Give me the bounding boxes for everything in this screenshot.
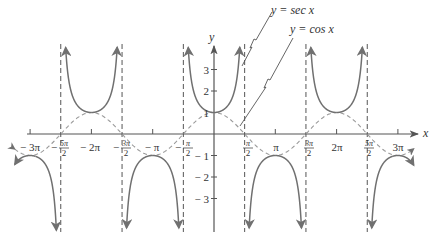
sec-branch <box>127 156 153 228</box>
x-tick-label: 3π <box>392 141 404 153</box>
x-axis-label: x <box>422 126 429 140</box>
x-tick-numerator: 5π <box>60 139 69 148</box>
sec-branch <box>393 156 414 166</box>
y-tick-label: − 2 <box>195 171 209 183</box>
y-tick-label: − 1 <box>195 150 209 162</box>
x-tick-label: − π <box>145 141 160 153</box>
x-tick-label: − 2π <box>80 141 100 153</box>
sec-branch <box>275 156 301 229</box>
sec-branch <box>311 47 337 112</box>
x-tick-numerator: 3π <box>304 139 314 148</box>
y-tick-label: 1 <box>204 107 210 119</box>
x-tick-denominator: 2 <box>246 148 251 158</box>
sec-leader-line <box>242 12 272 66</box>
minus-sign: − <box>175 141 181 153</box>
x-tick-denominator: 2 <box>367 148 372 158</box>
sec-branch <box>188 47 214 112</box>
x-tick-label: 2π <box>331 141 343 153</box>
x-tick-denominator: 2 <box>124 148 129 158</box>
x-tick-numerator: 5π <box>365 139 374 148</box>
sec-branch <box>337 47 363 112</box>
x-tick-denominator: 2 <box>186 148 191 158</box>
sec-branch <box>249 156 275 228</box>
y-axis-label: y <box>208 30 215 44</box>
x-tick-numerator: 3π <box>121 139 131 148</box>
cos-leader-line <box>240 38 293 126</box>
sec-branch <box>214 47 240 112</box>
minus-sign: − <box>113 141 119 153</box>
sec-label: y = sec x <box>270 3 315 17</box>
sec-branch <box>36 156 57 230</box>
x-tick-denominator: 2 <box>62 148 67 158</box>
x-tick-numerator: π <box>186 139 191 148</box>
x-tick-label: π <box>273 141 279 153</box>
sec-branch <box>372 156 393 228</box>
sec-cos-chart: y = sec x y = cos x x y − 3π−5π2− 2π−3π2… <box>0 0 433 241</box>
sec-branch <box>66 47 92 112</box>
sec-branch <box>153 156 179 229</box>
y-tick-label: 2 <box>204 85 210 97</box>
minus-sign: − <box>51 141 57 153</box>
sec-branch <box>91 47 117 112</box>
sec-branch <box>15 156 36 165</box>
y-tick-label: 3 <box>204 64 210 76</box>
y-tick-label: − 3 <box>195 193 210 205</box>
x-tick-denominator: 2 <box>307 148 312 158</box>
annotation-leaders <box>240 12 293 126</box>
x-tick-label: − 3π <box>20 141 40 153</box>
cos-label: y = cos x <box>289 22 334 36</box>
